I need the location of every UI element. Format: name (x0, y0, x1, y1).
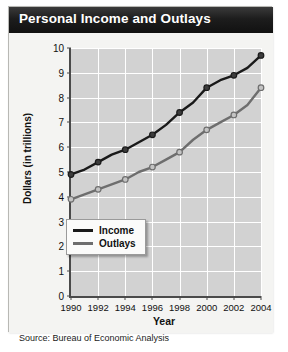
x-tick-mark (261, 296, 262, 300)
data-point-outlays (258, 85, 264, 91)
legend-swatch-outlays (73, 242, 93, 245)
data-point-outlays (150, 164, 156, 170)
legend-label-outlays: Outlays (99, 238, 136, 249)
x-tick-mark (152, 296, 153, 300)
legend-label-income: Income (99, 225, 134, 236)
data-point-income (204, 85, 210, 91)
data-point-income (95, 159, 101, 165)
x-tick-label: 2002 (223, 302, 244, 313)
data-point-outlays (204, 127, 210, 133)
data-point-income (150, 132, 156, 138)
legend-swatch-income (73, 229, 93, 232)
x-tick-mark (233, 296, 234, 300)
series-line-outlays (71, 88, 261, 200)
x-tick-label: 2000 (196, 302, 217, 313)
y-tick-label: 7 (58, 117, 64, 128)
x-tick-label: 1998 (169, 302, 190, 313)
data-point-outlays (95, 187, 101, 193)
data-point-outlays (231, 112, 237, 118)
y-tick-label: 0 (58, 291, 64, 302)
y-tick-label: 10 (53, 43, 64, 54)
data-point-outlays (68, 196, 74, 202)
data-point-income (122, 147, 128, 153)
x-tick-mark (206, 296, 207, 300)
y-tick-label: 5 (58, 167, 64, 178)
y-tick-label: 9 (58, 67, 64, 78)
x-tick-mark (98, 296, 99, 300)
x-tick-label: 2004 (250, 302, 271, 313)
legend-item-outlays: Outlays (73, 237, 136, 250)
x-tick-label: 1990 (60, 302, 81, 313)
y-tick-label: 4 (58, 191, 64, 202)
y-tick-label: 8 (58, 92, 64, 103)
x-tick-label: 1996 (142, 302, 163, 313)
data-point-income (258, 53, 264, 59)
x-tick-label: 1994 (115, 302, 136, 313)
chart-title-bar: Personal Income and Outlays (9, 7, 273, 33)
chart-figure: Personal Income and Outlays Dollars (in … (8, 6, 272, 332)
y-tick-label: 1 (58, 266, 64, 277)
x-tick-mark (179, 296, 180, 300)
x-tick-label: 1992 (88, 302, 109, 313)
x-axis-title: Year (69, 315, 259, 327)
data-point-outlays (177, 149, 183, 155)
data-point-income (231, 72, 237, 78)
y-tick-label: 2 (58, 241, 64, 252)
data-point-income (177, 110, 183, 116)
x-tick-mark (71, 296, 72, 300)
legend-item-income: Income (73, 224, 136, 237)
chart-legend: Income Outlays (66, 219, 146, 255)
y-tick-label: 6 (58, 142, 64, 153)
y-axis-title: Dollars (in trillions) (22, 89, 33, 229)
chart-body: Dollars (in trillions) 01234567891019901… (9, 33, 273, 333)
page-title: Personal Income and Outlays (19, 11, 211, 26)
data-point-income (68, 172, 74, 178)
plot-area: 0123456789101990199219941996199820002002… (69, 48, 261, 298)
data-point-outlays (122, 177, 128, 183)
source-note: Source: Bureau of Economic Analysis (19, 333, 169, 343)
y-tick-label: 3 (58, 216, 64, 227)
x-tick-mark (125, 296, 126, 300)
data-series-layer (71, 48, 261, 296)
